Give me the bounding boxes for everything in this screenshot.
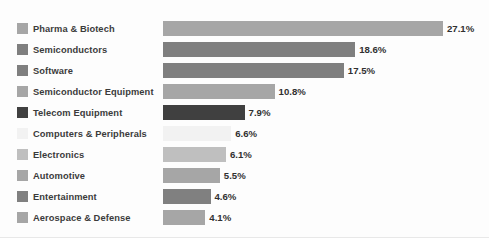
legend-swatch-icon <box>17 44 28 55</box>
legend-swatch-icon <box>17 170 28 181</box>
legend-item[interactable]: Electronics <box>0 144 160 165</box>
bar[interactable] <box>163 21 443 36</box>
legend-item-label: Automotive <box>33 171 85 181</box>
legend-item-label: Electronics <box>33 150 84 160</box>
legend-item-label: Software <box>33 66 73 76</box>
legend-item[interactable]: Software <box>0 60 160 81</box>
legend-item-label: Entertainment <box>33 192 97 202</box>
bar[interactable] <box>163 126 231 141</box>
bar-value-label: 4.1% <box>209 212 231 223</box>
bar-row: 4.1% <box>163 207 489 228</box>
bar-row: 6.1% <box>163 144 489 165</box>
legend-item-label: Aerospace & Defense <box>33 213 131 223</box>
legend-item[interactable]: Semiconductor Equipment <box>0 81 160 102</box>
bar-chart: Pharma & BiotechSemiconductorsSoftwareSe… <box>0 0 489 238</box>
bar-row: 5.5% <box>163 165 489 186</box>
legend-item[interactable]: Aerospace & Defense <box>0 207 160 228</box>
bar[interactable] <box>163 84 275 99</box>
bar[interactable] <box>163 189 211 204</box>
bar-row: 7.9% <box>163 102 489 123</box>
bar-value-label: 7.9% <box>249 107 271 118</box>
bar-row: 4.6% <box>163 186 489 207</box>
legend-item-label: Semiconductor Equipment <box>33 87 154 97</box>
bar-value-label: 10.8% <box>279 86 306 97</box>
legend-item-label: Semiconductors <box>33 45 107 55</box>
bar[interactable] <box>163 147 226 162</box>
bar-value-label: 6.6% <box>235 128 257 139</box>
bar[interactable] <box>163 210 205 225</box>
legend-swatch-icon <box>17 191 28 202</box>
legend-item-label: Telecom Equipment <box>33 108 122 118</box>
bar[interactable] <box>163 63 344 78</box>
bar-row: 10.8% <box>163 81 489 102</box>
bar-value-label: 5.5% <box>224 170 246 181</box>
legend-item[interactable]: Pharma & Biotech <box>0 18 160 39</box>
legend-swatch-icon <box>17 212 28 223</box>
chart-legend: Pharma & BiotechSemiconductorsSoftwareSe… <box>0 18 160 228</box>
legend-swatch-icon <box>17 107 28 118</box>
bar-value-label: 17.5% <box>348 65 375 76</box>
bar[interactable] <box>163 168 220 183</box>
legend-item[interactable]: Telecom Equipment <box>0 102 160 123</box>
bar[interactable] <box>163 105 245 120</box>
legend-item-label: Computers & Peripherals <box>33 129 147 139</box>
legend-item[interactable]: Automotive <box>0 165 160 186</box>
legend-swatch-icon <box>17 86 28 97</box>
legend-swatch-icon <box>17 128 28 139</box>
legend-item-label: Pharma & Biotech <box>33 24 115 34</box>
bar[interactable] <box>163 42 355 57</box>
legend-item[interactable]: Semiconductors <box>0 39 160 60</box>
legend-item[interactable]: Entertainment <box>0 186 160 207</box>
chart-bottom-rule <box>0 237 489 238</box>
bar-value-label: 4.6% <box>215 191 237 202</box>
bar-row: 27.1% <box>163 18 489 39</box>
chart-plot-area: 27.1%18.6%17.5%10.8%7.9%6.6%6.1%5.5%4.6%… <box>163 18 489 228</box>
bar-row: 17.5% <box>163 60 489 81</box>
legend-swatch-icon <box>17 23 28 34</box>
bar-value-label: 6.1% <box>230 149 252 160</box>
bar-value-label: 27.1% <box>447 23 474 34</box>
legend-swatch-icon <box>17 65 28 76</box>
bar-row: 6.6% <box>163 123 489 144</box>
legend-item[interactable]: Computers & Peripherals <box>0 123 160 144</box>
legend-swatch-icon <box>17 149 28 160</box>
bar-row: 18.6% <box>163 39 489 60</box>
bar-value-label: 18.6% <box>359 44 386 55</box>
